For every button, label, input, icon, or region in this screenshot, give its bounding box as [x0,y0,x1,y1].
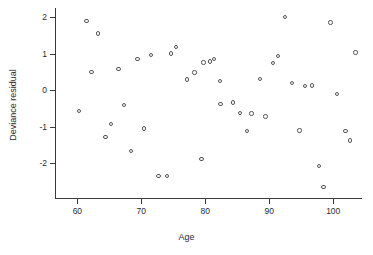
data-point [103,135,107,139]
x-tick-label: 90 [254,207,284,216]
x-tick-label: 60 [62,207,92,216]
data-point [249,111,253,115]
data-point [192,70,196,74]
y-tick-label: 2 [42,13,47,21]
data-point [116,67,120,71]
data-point [263,114,267,118]
x-tick-label: 80 [190,207,220,216]
plot-data-area [55,8,362,198]
data-point [348,138,352,142]
x-tick-mark [205,199,206,204]
data-point [297,128,301,132]
data-point [156,174,160,178]
data-point [231,100,235,104]
data-point [89,70,93,74]
y-tick-label: 0 [42,86,47,94]
y-tick-label: -2 [39,159,47,167]
x-tick-mark [269,199,270,204]
data-point [353,50,357,54]
data-point [201,60,205,64]
data-point [96,31,100,35]
data-point [169,51,173,55]
data-point [199,157,203,161]
y-tick-label: 1 [42,50,47,58]
data-point [142,126,146,130]
data-point [328,20,332,24]
x-axis-label: Age [0,232,373,242]
data-point [310,83,314,87]
y-tick-label: -1 [39,123,47,131]
data-point [321,185,325,189]
x-tick-label: 100 [318,207,348,216]
x-axis-line [55,198,362,199]
x-tick-mark [333,199,334,204]
data-point [149,53,153,57]
data-point [343,129,347,133]
x-tick-mark [77,199,78,204]
data-point [218,102,222,106]
x-tick-mark [141,199,142,204]
data-point [165,174,169,178]
data-point [185,77,189,81]
scatter-plot-figure: -2-1012 60708090100 Deviance residual Ag… [0,0,373,255]
x-tick-label: 70 [126,207,156,216]
data-point [135,57,139,61]
data-point [84,19,88,23]
y-axis-label: Deviance residual [8,45,18,165]
